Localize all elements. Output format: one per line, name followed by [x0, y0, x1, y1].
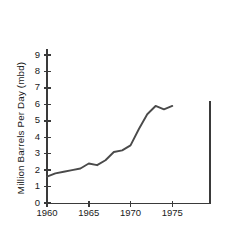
y-tick-label-0: 0 [35, 197, 40, 208]
y-tick-label-2: 2 [35, 164, 40, 175]
y-tick-label-5: 5 [35, 114, 40, 125]
y-tick-label-6: 6 [35, 98, 40, 109]
y-tick-label-3: 3 [35, 147, 40, 158]
line-chart: Million Barrels Per Day (mbd) 0 1 2 3 4 … [0, 0, 232, 230]
x-tick-label-1965: 1965 [78, 207, 99, 218]
y-tick-label-9: 9 [35, 49, 40, 60]
y-tick-label-8: 8 [35, 65, 40, 76]
y-tick-label-7: 7 [35, 81, 40, 92]
y-tick-label-4: 4 [35, 131, 40, 142]
x-tick-label-1975: 1975 [162, 207, 183, 218]
x-tick-label-1970: 1970 [120, 207, 141, 218]
x-tick-label-1960: 1960 [36, 207, 57, 218]
y-axis-label: Million Barrels Per Day (mbd) [15, 62, 26, 194]
data-series-line [47, 106, 172, 177]
chart-container: Million Barrels Per Day (mbd) 0 1 2 3 4 … [0, 0, 232, 230]
y-tick-label-1: 1 [35, 180, 40, 191]
